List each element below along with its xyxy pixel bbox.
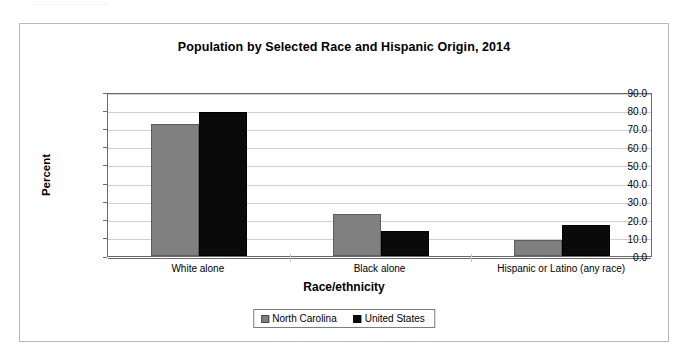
y-tick-mark-70 [103, 129, 107, 130]
gridline-0 [108, 258, 651, 259]
chart-title: Population by Selected Race and Hispanic… [20, 40, 668, 54]
y-tick-label-50: 50.0 [628, 160, 647, 171]
y-tick-label-70: 70.0 [628, 124, 647, 135]
legend-label-united-states: United States [365, 313, 425, 324]
plot-area [107, 93, 652, 257]
y-tick-label-40: 40.0 [628, 179, 647, 190]
bar-north-carolina-2 [514, 240, 562, 256]
category-separator-1 [290, 254, 291, 262]
page-header-strip: ........................................… [30, 0, 360, 7]
y-tick-mark-80 [103, 111, 107, 112]
legend-label-north-carolina: North Carolina [272, 313, 336, 324]
y-tick-mark-30 [103, 202, 107, 203]
gridline-80 [108, 112, 651, 113]
y-tick-mark-0 [103, 257, 107, 258]
y-tick-label-30: 30.0 [628, 197, 647, 208]
y-tick-label-90: 90.0 [628, 88, 647, 99]
x-category-label-1: Black alone [354, 263, 406, 274]
bar-united-states-0 [199, 112, 247, 256]
legend-swatch-icon-united-states [354, 315, 362, 323]
plot-wrapper: 90.080.070.060.050.040.030.020.010.00.0 [107, 93, 652, 257]
legend-item-north-carolina[interactable]: North Carolina [261, 313, 336, 324]
legend-item-united-states[interactable]: United States [354, 313, 425, 324]
y-tick-mark-40 [103, 184, 107, 185]
chart-legend: North Carolina United States [253, 309, 435, 328]
y-tick-mark-60 [103, 147, 107, 148]
legend-swatch-icon-north-carolina [261, 315, 269, 323]
bar-north-carolina-1 [333, 214, 381, 256]
y-tick-label-0: 0.0 [633, 252, 647, 263]
x-category-label-0: White alone [171, 263, 224, 274]
bar-north-carolina-0 [151, 124, 199, 256]
bar-united-states-2 [562, 225, 610, 256]
y-tick-mark-10 [103, 238, 107, 239]
y-tick-mark-90 [103, 93, 107, 94]
category-separator-2 [471, 254, 472, 262]
chart-figure: Population by Selected Race and Hispanic… [19, 23, 669, 342]
gridline-90 [108, 94, 651, 95]
x-category-label-2: Hispanic or Latino (any race) [497, 263, 625, 274]
bar-united-states-1 [381, 231, 429, 256]
y-tick-label-20: 20.0 [628, 215, 647, 226]
y-tick-mark-20 [103, 220, 107, 221]
y-axis-title: Percent [38, 93, 54, 257]
y-tick-label-60: 60.0 [628, 142, 647, 153]
y-tick-label-10: 10.0 [628, 233, 647, 244]
x-axis-title: Race/ethnicity [20, 280, 668, 294]
y-tick-label-80: 80.0 [628, 106, 647, 117]
y-tick-mark-50 [103, 165, 107, 166]
